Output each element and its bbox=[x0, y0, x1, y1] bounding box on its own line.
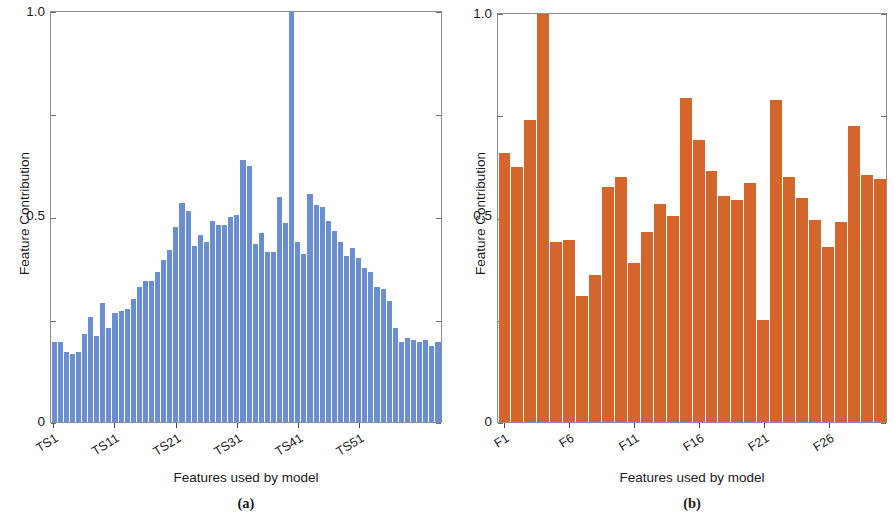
bar bbox=[615, 177, 627, 422]
x-tick-label: TS11 bbox=[63, 431, 121, 475]
bar bbox=[550, 242, 562, 422]
bar bbox=[874, 179, 886, 422]
bar bbox=[338, 242, 343, 422]
bar bbox=[374, 287, 379, 422]
panel-b: Feature Contribution 1.0 0.5 0 F1F6F11F1… bbox=[455, 0, 894, 519]
bar bbox=[314, 205, 319, 422]
bar bbox=[210, 221, 215, 422]
bar bbox=[52, 342, 57, 422]
bar bbox=[693, 140, 705, 422]
bar bbox=[350, 248, 355, 422]
bar bbox=[399, 342, 404, 422]
bar bbox=[835, 222, 847, 422]
bar bbox=[253, 244, 258, 422]
x-tick-label: TS41 bbox=[247, 431, 305, 475]
bar bbox=[112, 313, 117, 422]
x-tick-mark bbox=[829, 423, 830, 428]
bar bbox=[216, 225, 221, 422]
bar bbox=[94, 336, 99, 422]
figure-container: Feature Contribution 1.0 0.5 0 TS1TS11TS… bbox=[0, 0, 894, 519]
panel-b-ytick-label-0: 0 bbox=[454, 414, 492, 429]
panel-a-plot-area bbox=[50, 11, 442, 423]
bar bbox=[667, 216, 679, 422]
panel-b-ytick-mark-0-right bbox=[881, 423, 886, 424]
x-tick-mark bbox=[699, 423, 700, 428]
bar bbox=[137, 287, 142, 422]
bar bbox=[393, 328, 398, 422]
bar bbox=[628, 263, 640, 422]
bar bbox=[356, 258, 361, 422]
bar bbox=[537, 14, 549, 422]
bar bbox=[88, 317, 93, 422]
panel-b-ytick-mark-0 bbox=[498, 423, 503, 424]
bar bbox=[186, 211, 191, 422]
bar bbox=[192, 246, 197, 422]
bar bbox=[76, 352, 81, 422]
bar bbox=[100, 303, 105, 422]
x-tick-label: TS21 bbox=[125, 431, 183, 475]
x-tick-mark bbox=[114, 423, 115, 428]
x-tick-mark bbox=[176, 423, 177, 428]
bar bbox=[405, 338, 410, 422]
bar bbox=[161, 260, 166, 422]
panel-b-ytick-label-1: 1.0 bbox=[454, 6, 492, 21]
panel-a: Feature Contribution 1.0 0.5 0 TS1TS11TS… bbox=[0, 0, 455, 519]
panel-b-ytick-label-0_5: 0.5 bbox=[454, 208, 492, 223]
bar bbox=[718, 196, 730, 422]
bar bbox=[307, 194, 312, 422]
bar bbox=[770, 100, 782, 422]
bar bbox=[783, 177, 795, 422]
bar bbox=[796, 198, 808, 422]
bar bbox=[247, 166, 252, 422]
bar bbox=[70, 354, 75, 422]
x-tick-mark bbox=[569, 423, 570, 428]
bar bbox=[822, 247, 834, 422]
bar bbox=[417, 342, 422, 422]
bar bbox=[228, 217, 233, 422]
bar bbox=[289, 12, 294, 422]
bar bbox=[499, 153, 511, 422]
bar bbox=[301, 254, 306, 422]
x-tick-label: F11 bbox=[583, 431, 641, 475]
x-tick-label: TS31 bbox=[186, 431, 244, 475]
bar bbox=[326, 221, 331, 422]
bar bbox=[283, 223, 288, 422]
bar bbox=[332, 231, 337, 422]
bar bbox=[64, 352, 69, 422]
bar bbox=[809, 220, 821, 422]
bar bbox=[149, 281, 154, 422]
bar bbox=[58, 342, 63, 422]
bar bbox=[387, 301, 392, 422]
panel-b-x-axis-label: Features used by model bbox=[497, 470, 887, 485]
panel-a-caption: (a) bbox=[50, 495, 442, 512]
panel-a-ytick-label-0: 0 bbox=[7, 414, 45, 429]
bar bbox=[848, 126, 860, 422]
bar bbox=[576, 296, 588, 422]
bar bbox=[435, 342, 440, 422]
bar bbox=[119, 311, 124, 422]
x-tick-label: F1 bbox=[453, 431, 511, 475]
bar bbox=[143, 281, 148, 422]
x-tick-mark bbox=[298, 423, 299, 428]
bar bbox=[265, 252, 270, 422]
bar bbox=[368, 272, 373, 422]
bar bbox=[731, 200, 743, 422]
bar bbox=[744, 183, 756, 422]
bar bbox=[602, 187, 614, 422]
x-tick-mark bbox=[53, 423, 54, 428]
bar bbox=[167, 250, 172, 422]
bar bbox=[155, 272, 160, 422]
bar bbox=[295, 242, 300, 422]
bar bbox=[641, 232, 653, 422]
x-tick-mark bbox=[634, 423, 635, 428]
bar bbox=[234, 215, 239, 422]
bar bbox=[411, 340, 416, 422]
bar bbox=[563, 240, 575, 422]
bar bbox=[344, 256, 349, 422]
bar bbox=[706, 171, 718, 422]
x-tick-mark bbox=[237, 423, 238, 428]
bar bbox=[429, 346, 434, 422]
bar bbox=[589, 275, 601, 422]
panel-b-caption: (b) bbox=[497, 495, 887, 512]
bar bbox=[82, 334, 87, 422]
